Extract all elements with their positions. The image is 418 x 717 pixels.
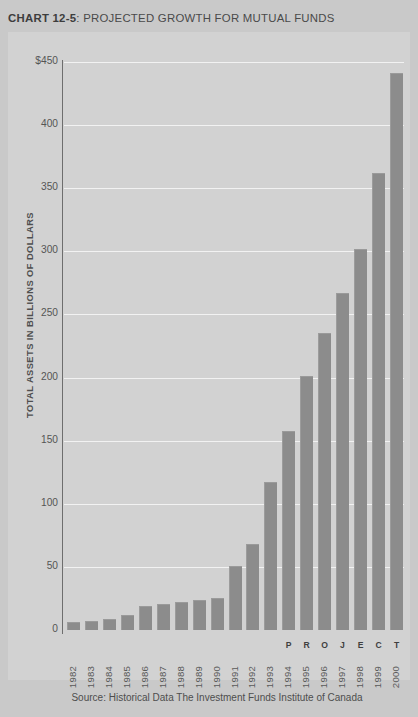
- bar: [264, 482, 277, 630]
- source-caption: Source: Historical Data The Investment F…: [8, 692, 418, 703]
- y-axis-tick-label: 100: [0, 497, 58, 508]
- bar: [372, 173, 385, 630]
- chart-panel: TOTAL ASSETS IN BILLIONS OF DOLLARS $450…: [8, 32, 410, 680]
- y-axis-tick-label: 350: [0, 181, 58, 192]
- bar: [103, 619, 116, 630]
- x-axis-tick-label: 1987: [157, 666, 170, 688]
- bar: [300, 376, 313, 630]
- plot-area: $450400350300250200150100500198219831984…: [64, 62, 404, 630]
- bar: [390, 73, 403, 630]
- y-axis-tick-label: $450: [0, 55, 58, 66]
- x-axis-tick-label: 1985: [121, 666, 134, 688]
- x-axis-tick-label: 2000: [390, 666, 403, 688]
- bar: [193, 600, 206, 630]
- y-axis-tick-label: 250: [0, 307, 58, 318]
- x-axis-tick-label: 1982: [67, 666, 80, 688]
- bar: [85, 621, 98, 630]
- x-axis-tick-label: 1988: [175, 666, 188, 688]
- y-axis-tick-label: 0: [0, 623, 58, 634]
- gridline: [64, 62, 404, 63]
- x-axis-tick-label: 1998: [354, 666, 367, 688]
- x-axis-tick-label: 1992: [246, 666, 259, 688]
- bar: [139, 606, 152, 630]
- title-band: CHART 12-5: PROJECTED GROWTH FOR MUTUAL …: [8, 6, 410, 30]
- y-axis-tick-label: 400: [0, 118, 58, 129]
- projected-annotation-letter: E: [354, 640, 367, 650]
- projected-annotation-letter: T: [390, 640, 403, 650]
- gridline: [64, 378, 404, 379]
- bar: [336, 293, 349, 630]
- y-axis-tick-label: 50: [0, 560, 58, 571]
- x-axis-tick-label: 1997: [336, 666, 349, 688]
- gridline: [64, 441, 404, 442]
- x-axis-tick-label: 1983: [85, 666, 98, 688]
- page-title: CHART 12-5: PROJECTED GROWTH FOR MUTUAL …: [8, 12, 335, 24]
- projected-annotation-letter: P: [282, 640, 295, 650]
- x-axis-tick-label: 1984: [103, 666, 116, 688]
- chart-page: CHART 12-5: PROJECTED GROWTH FOR MUTUAL …: [0, 0, 418, 717]
- x-axis-tick-label: 1991: [229, 666, 242, 688]
- bar: [246, 544, 259, 630]
- x-axis-tick-label: 1986: [139, 666, 152, 688]
- bar: [354, 249, 367, 630]
- gridline: [64, 188, 404, 189]
- projected-annotation-letter: J: [336, 640, 349, 650]
- y-axis-tick-label: 150: [0, 434, 58, 445]
- bar: [67, 622, 80, 630]
- gridline: [64, 251, 404, 252]
- bar: [175, 602, 188, 630]
- bar: [229, 566, 242, 630]
- x-axis-tick-label: 1989: [193, 666, 206, 688]
- bar: [121, 615, 134, 630]
- x-axis-tick-label: 1996: [318, 666, 331, 688]
- projected-annotation-letter: O: [318, 640, 331, 650]
- x-axis-tick-label: 1994: [282, 666, 295, 688]
- gridline: [64, 314, 404, 315]
- bar: [157, 604, 170, 631]
- x-axis-tick-label: 1995: [300, 666, 313, 688]
- y-axis-tick-label: 300: [0, 244, 58, 255]
- projected-annotation-letter: C: [372, 640, 385, 650]
- x-axis-tick-label: 1990: [211, 666, 224, 688]
- bar: [282, 431, 295, 630]
- x-axis-tick-label: 1993: [264, 666, 277, 688]
- gridline: [64, 504, 404, 505]
- gridline: [64, 125, 404, 126]
- y-axis-tick-label: 200: [0, 371, 58, 382]
- chart-title-text: : PROJECTED GROWTH FOR MUTUAL FUNDS: [76, 12, 334, 24]
- bar: [318, 333, 331, 630]
- x-axis-tick-label: 1999: [372, 666, 385, 688]
- projected-annotation-letter: R: [300, 640, 313, 650]
- chart-number: CHART 12-5: [8, 12, 76, 24]
- bar: [211, 598, 224, 630]
